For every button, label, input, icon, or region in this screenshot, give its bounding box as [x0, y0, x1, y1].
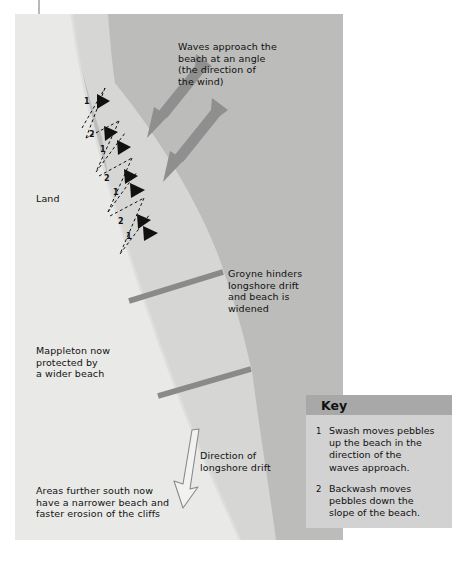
- key-entry-1: 1 Swash moves pebbles up the beach in th…: [316, 425, 448, 474]
- zigzag-marker-2a: 2: [89, 129, 95, 141]
- key-box: Key 1 Swash moves pebbles up the beach i…: [306, 395, 452, 528]
- key-entry-2-text: Backwash moves pebbles down the slope of…: [329, 483, 448, 520]
- zigzag-marker-2c: 2: [118, 216, 124, 228]
- southern-erosion-note: Areas further south now have a narrower …: [36, 485, 169, 520]
- key-entry-1-text: Swash moves pebbles up the beach in the …: [329, 425, 448, 474]
- drift-direction-note: Direction of longshore drift: [200, 450, 271, 473]
- key-entry-2: 2 Backwash moves pebbles down the slope …: [316, 483, 448, 520]
- zigzag-marker-1b: 1: [100, 144, 106, 156]
- groyne-note: Groyne hinders longshore drift and beach…: [228, 268, 302, 314]
- waves-approach-note: Waves approach the beach at an angle (th…: [178, 41, 277, 87]
- key-title: Key: [321, 398, 347, 413]
- zigzag-marker-2b: 2: [104, 173, 110, 185]
- key-entry-1-number: 1: [316, 425, 326, 437]
- land-label: Land: [36, 193, 60, 205]
- mappleton-note: Mappleton now protected by a wider beach: [36, 345, 110, 380]
- zigzag-marker-1a: 1: [84, 96, 90, 108]
- key-entry-2-number: 2: [316, 483, 326, 495]
- zigzag-marker-1c: 1: [113, 187, 119, 199]
- figure-canvas: Land Waves approach the beach at an angl…: [0, 0, 452, 565]
- zigzag-marker-1d: 1: [126, 231, 132, 243]
